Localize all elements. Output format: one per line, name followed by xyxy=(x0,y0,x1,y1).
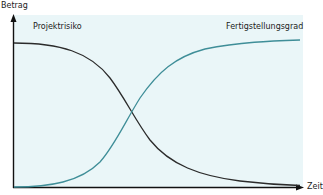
x-axis-label: Zeit xyxy=(307,183,323,191)
risk-series-label: Projektrisiko xyxy=(33,23,82,31)
y-axis-label: Betrag xyxy=(1,2,28,10)
risk-curve xyxy=(14,43,300,186)
completion-series-label: Fertigstellungsgrad xyxy=(226,23,303,31)
y-axis-arrow-icon xyxy=(11,14,17,22)
completion-curve xyxy=(14,40,300,187)
